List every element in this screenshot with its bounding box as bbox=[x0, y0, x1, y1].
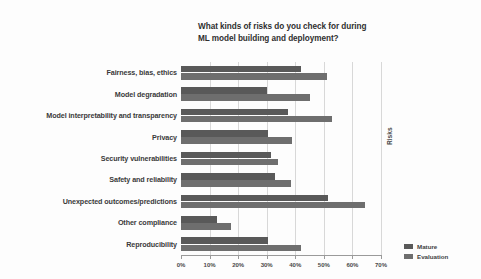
bar-evaluation bbox=[181, 245, 301, 252]
bar-group bbox=[181, 169, 381, 190]
x-tick-label: 50% bbox=[318, 262, 330, 268]
x-tick-label: 60% bbox=[346, 262, 358, 268]
bar-evaluation bbox=[181, 159, 278, 166]
bar-mature bbox=[181, 87, 267, 94]
chart-title-line-2: ML model building and deployment? bbox=[198, 33, 438, 45]
bar-mature bbox=[181, 66, 301, 73]
bar-evaluation bbox=[181, 137, 292, 144]
category-label: Security vulnerabilities bbox=[7, 154, 177, 163]
chart-title-line-1: What kinds of risks do you check for dur… bbox=[198, 21, 438, 33]
x-tick-mark bbox=[352, 255, 353, 259]
category-label: Model interpretability and transparency bbox=[7, 111, 177, 120]
legend-item[interactable]: Evaluation bbox=[404, 253, 448, 260]
legend-label: Mature bbox=[417, 243, 437, 250]
bar-group bbox=[181, 83, 381, 104]
bar-mature bbox=[181, 152, 271, 159]
bar-group bbox=[181, 148, 381, 169]
bar-mature bbox=[181, 173, 275, 180]
y-axis-title: Risks bbox=[386, 127, 393, 145]
bar-evaluation bbox=[181, 94, 310, 101]
x-tick-label: 20% bbox=[232, 262, 244, 268]
x-tick-label: 70% bbox=[375, 262, 387, 268]
bar-mature bbox=[181, 109, 288, 116]
category-label: Unexpected outcomes/predictions bbox=[7, 197, 177, 206]
legend-swatch-icon bbox=[404, 254, 413, 259]
category-label: Safety and reliability bbox=[7, 175, 177, 184]
bar-evaluation bbox=[181, 223, 231, 230]
bar-group bbox=[181, 234, 381, 255]
category-axis-labels: Fairness, bias, ethicsModel degradationM… bbox=[5, 62, 177, 255]
legend-label: Evaluation bbox=[417, 253, 448, 260]
x-axis-line bbox=[181, 255, 381, 256]
x-tick-label: 30% bbox=[261, 262, 273, 268]
bar-mature bbox=[181, 195, 328, 202]
x-tick-mark bbox=[181, 255, 182, 259]
bar-group bbox=[181, 105, 381, 126]
x-tick-mark bbox=[381, 255, 382, 259]
bar-mature bbox=[181, 216, 217, 223]
legend-swatch-icon bbox=[404, 244, 413, 249]
bar-group bbox=[181, 126, 381, 147]
bar-mature bbox=[181, 130, 268, 137]
bar-evaluation bbox=[181, 73, 327, 80]
category-label: Reproducibility bbox=[7, 240, 177, 249]
chart-title: What kinds of risks do you check for dur… bbox=[198, 21, 438, 44]
bar-evaluation bbox=[181, 202, 365, 209]
x-tick-label: 40% bbox=[289, 262, 301, 268]
chart-legend: MatureEvaluation bbox=[404, 243, 448, 263]
x-tick-mark bbox=[210, 255, 211, 259]
x-tick-label: 10% bbox=[204, 262, 216, 268]
category-label: Privacy bbox=[7, 133, 177, 142]
x-tick-mark bbox=[295, 255, 296, 259]
gridline bbox=[381, 62, 382, 255]
category-label: Fairness, bias, ethics bbox=[7, 68, 177, 77]
category-label: Model degradation bbox=[7, 90, 177, 99]
chart-figure: What kinds of risks do you check for dur… bbox=[0, 0, 481, 279]
x-tick-label: 0% bbox=[177, 262, 186, 268]
x-tick-mark bbox=[238, 255, 239, 259]
bar-evaluation bbox=[181, 180, 291, 187]
bar-evaluation bbox=[181, 116, 332, 123]
legend-item[interactable]: Mature bbox=[404, 243, 448, 250]
x-tick-mark bbox=[324, 255, 325, 259]
category-label: Other compliance bbox=[7, 218, 177, 227]
x-tick-mark bbox=[267, 255, 268, 259]
bar-mature bbox=[181, 237, 268, 244]
bar-group bbox=[181, 212, 381, 233]
bar-group bbox=[181, 191, 381, 212]
bar-group bbox=[181, 62, 381, 83]
plot-area bbox=[181, 62, 381, 255]
